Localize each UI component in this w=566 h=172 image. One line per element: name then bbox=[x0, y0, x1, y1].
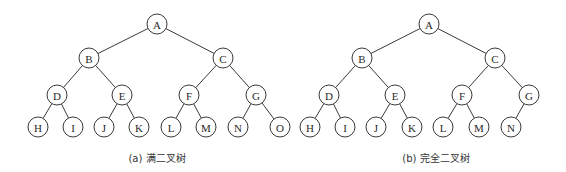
node-label: C bbox=[491, 53, 498, 65]
edge-B-D bbox=[336, 65, 356, 87]
tree-node-B: B bbox=[79, 48, 99, 68]
edge-C-F bbox=[469, 65, 489, 87]
node-label: E bbox=[392, 90, 399, 102]
edge-C-F bbox=[196, 65, 216, 87]
edge-A-C bbox=[166, 29, 214, 54]
caption-full-binary-tree: (a) 满二叉树 bbox=[128, 150, 185, 165]
tree-node-F: F bbox=[179, 85, 199, 105]
node-label: H bbox=[306, 122, 314, 134]
edge-F-L bbox=[448, 104, 457, 119]
tree-node-K: K bbox=[129, 117, 149, 137]
edge-F-M bbox=[467, 104, 475, 118]
tree-node-B: B bbox=[352, 48, 372, 68]
tree-node-A: A bbox=[147, 14, 167, 34]
tree-full-nodes: ABCDEFGHIJKLMNO bbox=[28, 14, 290, 137]
tree-node-M: M bbox=[469, 117, 489, 137]
node-label: A bbox=[153, 19, 161, 31]
edge-D-I bbox=[61, 104, 68, 118]
tree-graphics: ABCDEFGHIJKLMNOABCDEFGHIJKLMN bbox=[0, 0, 566, 172]
edge-F-L bbox=[176, 104, 184, 119]
tree-node-L: L bbox=[161, 117, 181, 137]
tree-node-J: J bbox=[366, 117, 386, 137]
tree-node-A: A bbox=[419, 14, 439, 34]
node-label: D bbox=[53, 90, 61, 102]
tree-node-L: L bbox=[433, 117, 453, 137]
node-label: L bbox=[168, 122, 175, 134]
edge-A-B bbox=[371, 29, 420, 54]
node-label: M bbox=[474, 122, 484, 134]
node-label: G bbox=[252, 90, 260, 102]
node-label: F bbox=[186, 90, 192, 102]
edge-E-K bbox=[127, 104, 135, 118]
node-label: B bbox=[358, 53, 365, 65]
tree-full-edges bbox=[43, 28, 274, 119]
tree-node-E: E bbox=[112, 85, 132, 105]
node-label: C bbox=[219, 53, 226, 65]
tree-node-C: C bbox=[485, 48, 505, 68]
tree-node-G: G bbox=[246, 85, 266, 105]
edge-B-E bbox=[96, 65, 116, 87]
tree-node-I: I bbox=[63, 117, 83, 137]
tree-node-D: D bbox=[319, 85, 339, 105]
node-label: A bbox=[425, 19, 433, 31]
tree-node-D: D bbox=[47, 85, 67, 105]
node-label: K bbox=[135, 122, 143, 134]
tree-complete-edges bbox=[315, 29, 524, 119]
edge-D-H bbox=[315, 104, 324, 119]
tree-node-N: N bbox=[501, 117, 521, 137]
node-label: J bbox=[102, 122, 107, 134]
tree-node-N: N bbox=[228, 117, 248, 137]
edge-D-H bbox=[43, 104, 52, 119]
node-label: K bbox=[408, 122, 416, 134]
tree-node-F: F bbox=[452, 85, 472, 105]
edge-C-G bbox=[230, 65, 250, 87]
caption-complete-binary-tree: (b) 完全二叉树 bbox=[402, 150, 469, 165]
node-label: I bbox=[71, 122, 75, 134]
node-label: N bbox=[507, 122, 515, 134]
node-label: H bbox=[34, 122, 42, 134]
edge-A-C bbox=[438, 29, 486, 54]
node-label: J bbox=[374, 122, 379, 134]
node-label: L bbox=[440, 122, 447, 134]
tree-complete-nodes: ABCDEFGHIJKLMN bbox=[300, 14, 539, 137]
tree-node-E: E bbox=[385, 85, 405, 105]
edge-E-K bbox=[400, 104, 408, 118]
edge-C-G bbox=[502, 65, 522, 87]
tree-node-K: K bbox=[402, 117, 422, 137]
edge-A-B bbox=[98, 28, 148, 53]
edge-G-N bbox=[516, 104, 524, 119]
edge-D-I bbox=[333, 104, 340, 118]
node-label: M bbox=[201, 122, 211, 134]
edge-E-J bbox=[381, 104, 390, 119]
tree-node-O: O bbox=[270, 117, 290, 137]
tree-node-I: I bbox=[335, 117, 355, 137]
edge-F-M bbox=[194, 104, 202, 118]
edge-G-N bbox=[243, 104, 251, 119]
tree-node-G: G bbox=[519, 85, 539, 105]
edge-B-D bbox=[64, 66, 83, 88]
tree-node-M: M bbox=[196, 117, 216, 137]
node-label: I bbox=[343, 122, 347, 134]
node-label: B bbox=[85, 53, 92, 65]
edges-layer bbox=[43, 28, 524, 119]
edge-G-O bbox=[262, 103, 274, 119]
tree-node-J: J bbox=[94, 117, 114, 137]
tree-node-H: H bbox=[300, 117, 320, 137]
node-label: E bbox=[119, 90, 126, 102]
binary-tree-diagram: ABCDEFGHIJKLMNOABCDEFGHIJKLMN (a) 满二叉树 (… bbox=[0, 0, 566, 172]
tree-node-C: C bbox=[213, 48, 233, 68]
node-label: O bbox=[276, 122, 284, 134]
node-label: G bbox=[525, 90, 533, 102]
edge-E-J bbox=[109, 104, 117, 119]
tree-node-H: H bbox=[28, 117, 48, 137]
edge-B-E bbox=[369, 65, 389, 87]
node-label: F bbox=[459, 90, 465, 102]
node-label: N bbox=[234, 122, 242, 134]
node-label: D bbox=[325, 90, 333, 102]
